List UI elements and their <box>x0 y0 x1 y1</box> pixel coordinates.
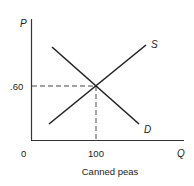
demand-curve <box>52 47 139 124</box>
quantity-tick-label: 100 <box>88 148 104 159</box>
demand-label: D <box>144 124 151 135</box>
supply-label: S <box>151 39 158 50</box>
price-tick-label: .60 <box>10 81 23 92</box>
origin-label: 0 <box>21 148 26 159</box>
x-axis-symbol: Q <box>177 148 185 159</box>
supply-demand-chart: P S D .60 0 100 Q Canned peas <box>0 0 194 186</box>
x-axis-title: Canned peas <box>82 166 139 177</box>
y-axis-symbol: P <box>20 18 27 29</box>
